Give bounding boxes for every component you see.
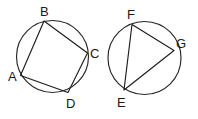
vertex-label-d: D [66, 96, 75, 111]
left-circle-group: B C D A [8, 4, 99, 111]
vertex-label-g: G [176, 36, 186, 51]
figure-canvas: B C D A F G E [0, 0, 198, 119]
left-circle-outline [17, 21, 89, 93]
vertex-label-f: F [127, 7, 135, 22]
vertex-label-c: C [90, 46, 99, 61]
inscribed-triangle-efg [124, 25, 174, 91]
vertex-label-e: E [117, 95, 126, 110]
vertex-label-b: B [40, 4, 49, 19]
right-circle-group: F G E [108, 7, 186, 110]
geometry-figure: B C D A F G E [0, 0, 198, 119]
vertex-label-a: A [8, 69, 17, 84]
